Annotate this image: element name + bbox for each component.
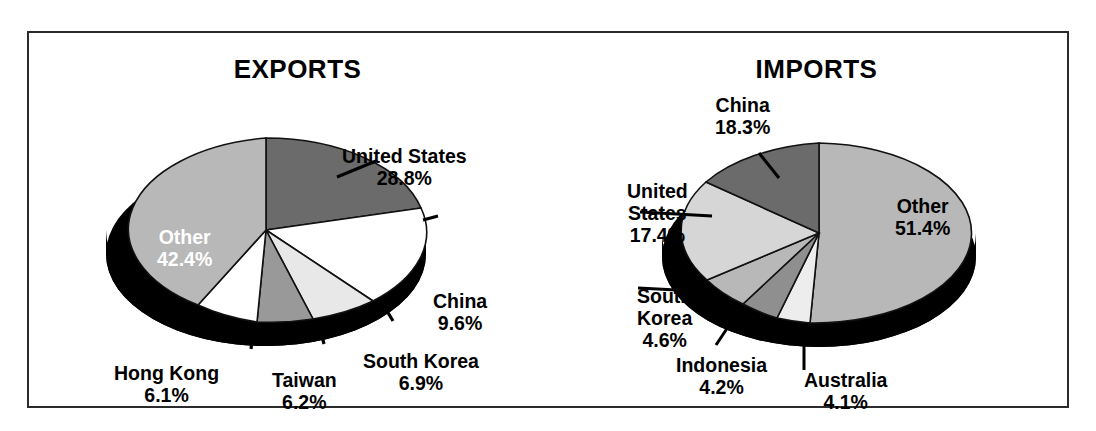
exports-label-hong-kong-name: Hong Kong (114, 363, 219, 385)
imports-label-indonesia-name: Indonesia (676, 355, 767, 377)
exports-label-south-korea-percent: 6.9% (363, 373, 479, 395)
exports-label-south-korea: South Korea 6.9% (363, 351, 479, 395)
figure-frame: EXPORTS (27, 31, 1069, 408)
imports-label-united-states-name-line1: United (627, 181, 688, 203)
exports-label-hong-kong: Hong Kong 6.1% (114, 363, 219, 407)
imports-label-south-korea: South Korea 4.6% (637, 286, 692, 351)
imports-pie-chart (654, 131, 984, 366)
imports-label-south-korea-percent: 4.6% (637, 330, 692, 352)
imports-label-indonesia-percent: 4.2% (676, 377, 767, 399)
exports-label-taiwan-name: Taiwan (272, 370, 337, 392)
imports-label-china: China 18.3% (715, 95, 770, 139)
exports-label-south-korea-name: South Korea (363, 351, 479, 373)
imports-label-indonesia: Indonesia 4.2% (676, 355, 767, 399)
exports-label-hong-kong-percent: 6.1% (114, 385, 219, 407)
imports-label-south-korea-name-line1: South (637, 286, 692, 308)
exports-label-other: Other 42.4% (157, 227, 212, 271)
imports-chart-panel: IMPORTS (550, 33, 1071, 406)
exports-chart-panel: EXPORTS (29, 33, 550, 406)
exports-label-taiwan-percent: 6.2% (272, 392, 337, 414)
imports-chart-title: IMPORTS (556, 54, 1077, 85)
exports-label-taiwan: Taiwan 6.2% (272, 370, 337, 414)
imports-label-other-percent: 51.4% (895, 218, 950, 240)
exports-label-united-states-percent: 28.8% (342, 168, 467, 190)
imports-label-other-name: Other (895, 196, 950, 218)
imports-label-china-name: China (715, 95, 770, 117)
exports-label-china-name: China (433, 291, 487, 313)
imports-label-south-korea-name-line2: Korea (637, 308, 692, 330)
exports-label-other-name: Other (157, 227, 212, 249)
exports-label-united-states: United States 28.8% (342, 146, 467, 190)
imports-label-china-percent: 18.3% (715, 117, 770, 139)
imports-label-australia: Australia 4.1% (804, 370, 887, 414)
exports-label-other-percent: 42.4% (157, 249, 212, 271)
figure-root: EXPORTS (0, 0, 1096, 431)
exports-label-china-percent: 9.6% (433, 313, 487, 335)
imports-label-united-states-name-line2: States (627, 203, 688, 225)
imports-label-united-states-percent: 17.4% (627, 225, 688, 247)
imports-label-other: Other 51.4% (895, 196, 950, 240)
imports-label-australia-percent: 4.1% (804, 392, 887, 414)
imports-label-australia-name: Australia (804, 370, 887, 392)
exports-chart-title: EXPORTS (37, 54, 558, 85)
exports-label-china: China 9.6% (433, 291, 487, 335)
imports-label-united-states: United States 17.4% (627, 181, 688, 246)
exports-label-united-states-name: United States (342, 146, 467, 168)
